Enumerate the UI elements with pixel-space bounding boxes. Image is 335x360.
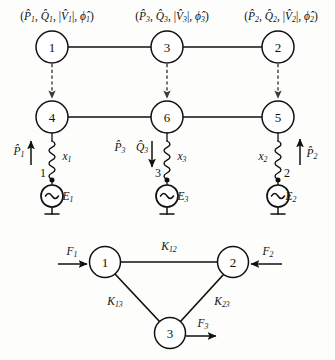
mid-node-6: 6 [151, 101, 183, 133]
spring-edge-1-3 [115, 274, 160, 322]
lower-node-2-label: 2 [230, 255, 237, 270]
spring-label-k23: K23 [213, 295, 230, 309]
spring-label-k12: K12 [160, 240, 177, 254]
reactance-coil-2 [275, 141, 281, 179]
emf-label-2: E2 [285, 190, 297, 204]
top-node-3-label: 3 [164, 40, 171, 55]
bus-number-gen-2: 2 [284, 166, 290, 180]
emf-label-1: E1 [62, 190, 74, 204]
mid-node-5-label: 5 [275, 110, 282, 125]
mid-node-5: 5 [262, 101, 294, 133]
power-system-diagram: (P̂1, Q̂1, |V̂1|, ϕ̂1) (P̂3, Q̂3, |V̂3|,… [0, 0, 335, 360]
mid-node-4-label: 4 [49, 110, 56, 125]
mid-node-6-label: 6 [164, 110, 171, 125]
injection-label-p2: P̂2 [306, 146, 318, 161]
spring-label-k13: K13 [106, 295, 123, 309]
emf-label-3: E3 [177, 190, 189, 204]
measurement-label-bus-3: (P̂3, Q̂3, |V̂3|, ϕ̂3) [135, 9, 209, 24]
injection-label-p3: P̂3 [114, 140, 126, 155]
figure-canvas: (P̂1, Q̂1, |V̂1|, ϕ̂1) (P̂3, Q̂3, |V̂3|,… [0, 0, 335, 360]
bus-dot-3 [165, 178, 170, 183]
reactance-coil-1 [49, 141, 55, 179]
top-node-1-label: 1 [49, 40, 56, 55]
mid-node-4: 4 [36, 101, 68, 133]
reactance-label-2: x2 [257, 150, 267, 164]
force-label-2: F2 [262, 245, 274, 259]
lower-node-2: 2 [218, 247, 249, 278]
lower-node-3-label: 3 [167, 326, 174, 341]
force-label-3: F3 [197, 317, 209, 331]
bus-dot-1 [50, 178, 55, 183]
force-label-1: F1 [66, 245, 78, 259]
lower-node-3: 3 [155, 318, 186, 349]
reactance-label-1: x1 [61, 150, 71, 164]
top-node-2-label: 2 [275, 40, 282, 55]
measurement-label-bus-2: (P̂2, Q̂2, |V̂2|, ϕ̂2) [244, 9, 318, 24]
top-node-3: 3 [151, 31, 183, 63]
bus-number-gen-3: 3 [155, 166, 161, 180]
bus-dot-2 [276, 178, 281, 183]
reactance-label-3: x3 [176, 150, 186, 164]
injection-label-q3: Q̂3 [136, 140, 148, 155]
generator-branch-3: 3 x3 P̂3 Q̂3 [114, 133, 187, 214]
lower-node-1: 1 [90, 247, 121, 278]
lower-node-1-label: 1 [102, 255, 109, 270]
bus-number-gen-1: 1 [40, 166, 46, 180]
top-node-2: 2 [262, 31, 294, 63]
measurement-label-bus-1: (P̂1, Q̂1, |V̂1|, ϕ̂1) [20, 9, 94, 24]
top-node-1: 1 [36, 31, 68, 63]
reactance-coil-3 [164, 141, 170, 179]
injection-label-p1: P̂1 [13, 144, 25, 159]
